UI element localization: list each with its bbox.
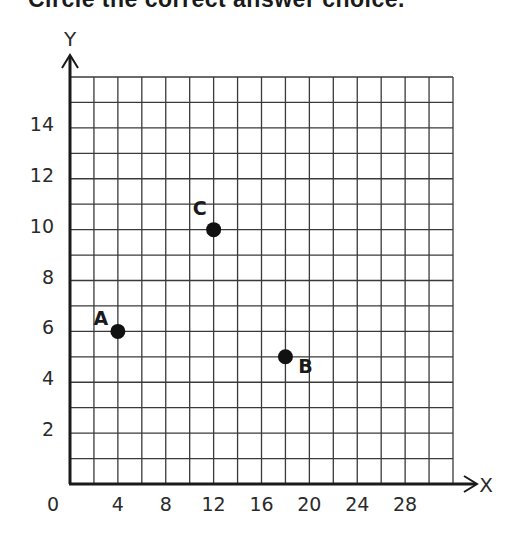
x-tick-label: 16: [249, 493, 273, 515]
point-c: [206, 222, 221, 237]
y-tick-label: 6: [42, 316, 54, 338]
y-tick-label: 4: [42, 367, 54, 389]
x-tick-labels: 0481216202428: [47, 493, 417, 515]
data-points: ABC: [94, 197, 313, 377]
y-tick-label: 12: [30, 164, 54, 186]
x-tick-label: 24: [345, 493, 369, 515]
point-a: [110, 324, 125, 339]
y-tick-label: 10: [30, 215, 54, 237]
x-tick-label: 20: [297, 493, 321, 515]
y-tick-label: 8: [42, 266, 54, 288]
x-tick-label: 0: [47, 493, 59, 515]
x-axis-label: X: [479, 473, 493, 497]
y-tick-label: 14: [30, 113, 54, 135]
point-b: [278, 349, 293, 364]
y-tick-label: 2: [42, 418, 54, 440]
point-label-b: B: [298, 355, 312, 377]
x-tick-label: 4: [112, 493, 124, 515]
x-tick-label: 12: [202, 493, 226, 515]
y-tick-labels: 2468101214: [30, 113, 54, 440]
coordinate-grid-chart: Y X 0481216202428 2468101214 ABC: [0, 0, 518, 541]
grid-lines: [70, 77, 453, 484]
x-tick-label: 8: [160, 493, 172, 515]
point-label-a: A: [94, 307, 109, 329]
x-tick-label: 28: [393, 493, 417, 515]
y-axis-label: Y: [63, 27, 77, 51]
point-label-c: C: [193, 197, 207, 219]
